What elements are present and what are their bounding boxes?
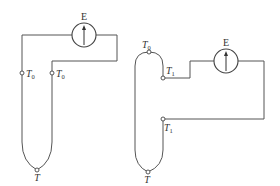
junction-node bbox=[20, 71, 24, 75]
left-circuit: E T0 T0 T bbox=[20, 11, 117, 183]
junction-label: T1 bbox=[164, 122, 173, 134]
right-thermocouple-upper-loop bbox=[135, 52, 163, 150]
junction-label: T bbox=[34, 172, 41, 183]
junction-node bbox=[50, 71, 54, 75]
junction-label: T0 bbox=[142, 39, 151, 51]
junction-label: T bbox=[144, 174, 151, 185]
left-thermocouple-loop bbox=[22, 73, 52, 170]
junction-label: T1 bbox=[166, 65, 175, 77]
right-thermocouple-lower-loop bbox=[135, 119, 163, 172]
junction-node bbox=[161, 76, 165, 80]
meter-label: E bbox=[81, 11, 87, 22]
meter-label: E bbox=[223, 37, 229, 48]
right-circuit: E T0 T1 T1 T bbox=[135, 37, 264, 185]
thermocouple-diagram: E T0 T0 T E T0 T1 bbox=[0, 0, 280, 186]
right-galvanometer: E bbox=[214, 37, 238, 73]
left-galvanometer: E bbox=[72, 11, 96, 47]
junction-label: T0 bbox=[26, 68, 35, 80]
junction-node bbox=[161, 117, 165, 121]
junction-label: T0 bbox=[56, 68, 65, 80]
right-return-wire bbox=[163, 61, 264, 119]
